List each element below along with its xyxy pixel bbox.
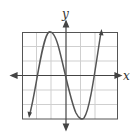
y-axis-label: y	[61, 7, 69, 21]
cubic-function-graph: x y	[0, 0, 135, 136]
y-axis-down-arrow-icon	[64, 124, 69, 130]
x-axis-left-arrow-icon	[11, 73, 17, 78]
x-axis-label: x	[123, 69, 130, 83]
x-axis-right-arrow-icon	[115, 73, 121, 78]
y-axis-up-arrow-icon	[64, 21, 69, 27]
curve-end-arrow-bottom-icon	[28, 112, 33, 119]
